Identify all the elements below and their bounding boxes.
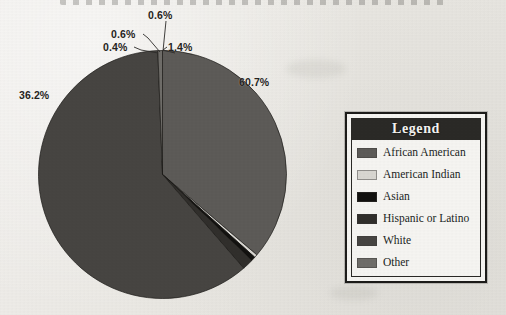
legend-color-swatch <box>357 148 377 158</box>
legend-item: American Indian <box>357 165 476 185</box>
legend-color-swatch <box>357 170 377 180</box>
legend-item-label: American Indian <box>383 169 461 181</box>
legend-color-swatch <box>357 192 377 202</box>
callout-label-american-indian: 0.4% <box>103 41 127 53</box>
legend-item: Other <box>357 253 476 273</box>
legend-title: Legend <box>352 119 480 140</box>
legend-item: White <box>357 231 476 251</box>
legend-color-swatch <box>357 258 377 268</box>
callout-label-white: 60.7% <box>239 76 269 88</box>
legend-color-swatch <box>357 214 377 224</box>
legend-item-label: Hispanic or Latino <box>383 213 469 225</box>
legend-item: African American <box>357 143 476 163</box>
legend-item: Hispanic or Latino <box>357 209 476 229</box>
legend-item-label: African American <box>383 147 466 159</box>
legend-item-label: White <box>383 235 411 247</box>
callout-label-asian: 0.6% <box>111 28 135 40</box>
callout-label-other: 0.6% <box>148 9 172 21</box>
legend-item: Asian <box>357 187 476 207</box>
legend-item-label: Asian <box>383 191 410 203</box>
legend-item-label: Other <box>383 257 409 269</box>
legend-item-list: African AmericanAmerican IndianAsianHisp… <box>352 140 480 276</box>
legend-color-swatch <box>357 236 377 246</box>
callout-label-hispanic-or-latino: 1.4% <box>168 41 192 53</box>
callout-label-african-american: 36.2% <box>19 89 49 101</box>
legend-box: Legend African AmericanAmerican IndianAs… <box>345 112 487 283</box>
